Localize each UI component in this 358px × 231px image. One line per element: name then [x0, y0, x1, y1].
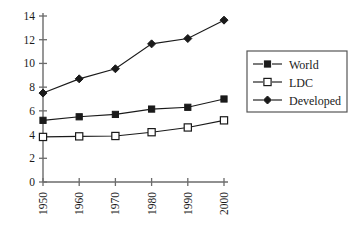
data-point-marker	[148, 40, 156, 48]
x-axis-tick-label: 1990	[182, 192, 194, 215]
y-axis-tick-label: 6	[29, 105, 35, 117]
data-point-marker	[76, 133, 83, 140]
x-axis-tick-label: 1980	[146, 192, 158, 215]
data-point-marker	[39, 89, 47, 97]
data-point-marker	[76, 114, 82, 120]
y-axis-tick-label: 14	[24, 10, 36, 22]
series-world	[40, 96, 227, 124]
y-axis-tick-label: 4	[29, 129, 35, 141]
legend-label: World	[289, 58, 319, 72]
x-axis-tick-label: 1950	[37, 192, 49, 215]
data-point-marker	[149, 106, 155, 112]
legend-label: Developed	[289, 94, 341, 108]
y-axis-tick-label: 0	[29, 176, 35, 188]
data-point-marker	[39, 133, 46, 140]
data-point-marker	[221, 96, 227, 102]
line-chart: 02468101214195019601970198019902000World…	[0, 0, 358, 231]
data-point-marker	[111, 65, 119, 73]
x-axis-tick-label: 2000	[218, 192, 230, 215]
legend-item-ldc[interactable]: LDC	[253, 76, 313, 90]
chart-canvas: 02468101214195019601970198019902000World…	[0, 0, 358, 231]
legend-item-world[interactable]: World	[253, 58, 319, 72]
y-axis-tick-label: 10	[24, 57, 36, 69]
data-point-marker	[112, 132, 119, 139]
data-point-marker	[148, 129, 155, 136]
data-point-marker	[75, 75, 83, 83]
data-point-marker	[185, 104, 191, 110]
series-line-ldc	[43, 120, 224, 137]
series-developed	[39, 16, 228, 97]
x-axis-tick-label: 1970	[109, 192, 121, 215]
data-point-marker	[184, 35, 192, 43]
data-point-marker	[220, 117, 227, 124]
legend-label: LDC	[289, 76, 313, 90]
legend-marker-icon	[264, 96, 272, 104]
data-point-marker	[112, 111, 118, 117]
legend-marker-icon	[264, 78, 271, 85]
data-point-marker	[184, 124, 191, 131]
legend-item-developed[interactable]: Developed	[253, 94, 341, 108]
legend: WorldLDCDeveloped	[247, 51, 347, 112]
legend-marker-icon	[264, 61, 270, 67]
y-axis-tick-label: 12	[24, 34, 36, 46]
series-line-world	[43, 99, 224, 120]
x-axis-tick-label: 1960	[73, 192, 85, 215]
y-axis-tick-label: 8	[29, 81, 35, 93]
data-point-marker	[40, 117, 46, 123]
series-ldc	[39, 117, 227, 141]
series-line-developed	[43, 20, 224, 93]
data-point-marker	[220, 16, 228, 24]
y-axis-tick-label: 2	[29, 152, 35, 164]
